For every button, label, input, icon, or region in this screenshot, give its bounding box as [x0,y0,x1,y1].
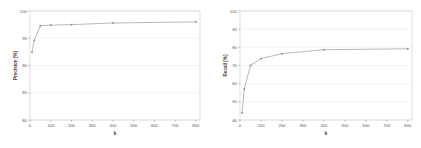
x-tick-label: 0 [239,123,242,128]
x-tick-label: 800 [404,123,412,128]
y-axis-title: Precision [%] [13,50,18,80]
x-tick-label: 200 [278,123,286,128]
y-tick-label: 90 [232,27,237,32]
data-point-marker [112,22,114,24]
x-tick-label: 400 [320,123,328,128]
x-tick-label: 100 [257,123,265,128]
data-series-line [32,22,196,52]
data-point-marker [33,40,35,42]
y-tick-label: 90 [22,63,27,68]
x-tick-label: 300 [89,123,97,128]
x-tick-label: 400 [109,123,117,128]
data-point-marker [71,24,73,26]
y-tick-label: 70 [232,63,237,68]
precision-chart-svg: 010020030040050060070080080859095100kPre… [0,0,210,148]
data-point-marker [323,49,325,51]
x-axis-title: k [114,131,117,136]
y-tick-label: 85 [22,90,27,95]
data-point-marker [50,24,52,26]
x-tick-label: 700 [383,123,391,128]
data-point-marker [40,25,42,27]
x-tick-label: 800 [192,123,200,128]
data-point-marker [281,53,283,55]
x-tick-label: 300 [299,123,307,128]
chart-panel-precision: 010020030040050060070080080859095100kPre… [0,0,210,148]
data-point-marker [195,21,197,23]
y-tick-label: 100 [20,9,28,14]
data-series-line [242,49,408,113]
y-tick-label: 80 [232,45,237,50]
x-axis-title: k [325,131,328,136]
data-point-marker [260,58,262,60]
x-tick-label: 200 [68,123,76,128]
y-axis-title: Recall [%] [223,54,228,76]
x-tick-label: 500 [130,123,138,128]
y-tick-label: 50 [232,99,237,104]
recall-chart-svg: 0100200300400500600700800405060708090100… [210,0,421,148]
y-tick-label: 80 [22,118,27,123]
x-tick-label: 600 [151,123,159,128]
chart-panel-recall: 0100200300400500600700800405060708090100… [210,0,421,148]
data-point-marker [407,48,409,50]
y-tick-label: 40 [232,118,237,123]
data-point-marker [31,51,33,53]
x-tick-label: 100 [47,123,55,128]
x-tick-label: 0 [29,123,32,128]
x-tick-label: 700 [172,123,180,128]
x-tick-label: 500 [341,123,349,128]
y-tick-label: 60 [232,81,237,86]
data-point-marker [241,112,243,114]
x-tick-label: 600 [362,123,370,128]
data-point-marker [243,88,245,90]
y-tick-label: 100 [230,9,238,14]
figure-container: 010020030040050060070080080859095100kPre… [0,0,421,148]
y-tick-label: 95 [22,36,27,41]
data-point-marker [250,65,252,67]
